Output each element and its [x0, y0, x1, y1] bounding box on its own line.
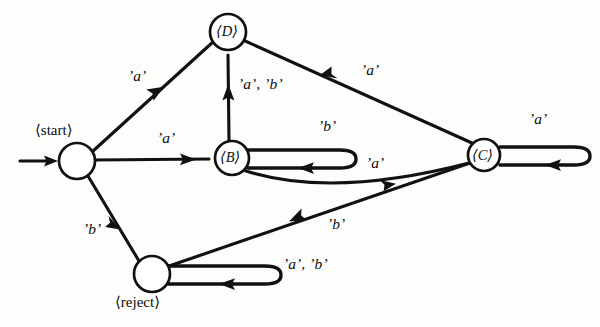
edge-reject-self-loop — [168, 266, 281, 290]
edge-label-start-to-D: ’a’ — [128, 68, 146, 84]
edge-label-C-to-D: ’a’ — [361, 62, 379, 78]
state-label-reject: ⟨reject⟩ — [115, 295, 160, 310]
state-label-B: ⟨B⟩ — [220, 149, 240, 166]
state-node-start[interactable] — [59, 143, 95, 179]
edge-label-B-self-loop: ’b’ — [318, 118, 336, 134]
state-diagram: ⟨start⟩ ⟨D⟩ ⟨B⟩ ⟨C⟩ ⟨reject⟩ ’a’ ’a’ ’b’… — [0, 0, 600, 327]
state-label-start: ⟨start⟩ — [35, 123, 73, 138]
edge-label-reject-self-loop: ’a’, ’b’ — [283, 256, 328, 272]
edge-label-start-to-reject: ’b’ — [83, 221, 101, 237]
edge-label-B-to-C: ’a’ — [366, 155, 384, 171]
state-label-C: ⟨C⟩ — [472, 147, 493, 164]
edge-label-B-to-D: ’a’, ’b’ — [238, 76, 283, 92]
initial-arrow — [20, 156, 58, 167]
state-diagram-canvas — [0, 0, 600, 327]
edge-label-start-to-B: ’a’ — [157, 130, 175, 146]
edge-start-to-B — [95, 154, 209, 166]
state-label-D: ⟨D⟩ — [216, 23, 238, 40]
edge-start-to-D — [93, 42, 214, 152]
edge-label-C-self-loop: ’a’ — [529, 111, 547, 127]
edge-label-C-to-reject: ’b’ — [327, 216, 345, 232]
edge-B-self-loop — [248, 150, 356, 174]
edge-C-to-reject — [169, 163, 470, 266]
state-node-reject[interactable] — [134, 256, 170, 292]
edge-start-to-reject — [88, 176, 139, 261]
edge-C-self-loop — [500, 147, 590, 171]
edge-B-to-D — [222, 55, 234, 141]
